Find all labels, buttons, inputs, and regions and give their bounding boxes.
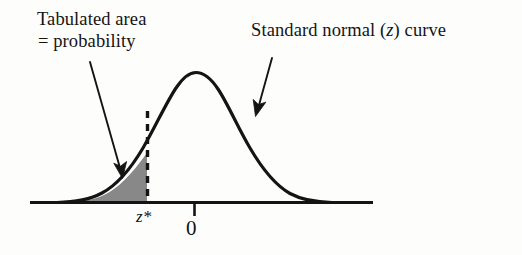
z-star-axis-label: z*	[136, 207, 151, 227]
tabulated-area-label: Tabulated area= probability	[37, 9, 147, 53]
standard-normal-curve-label: Standard normal (z) curve	[251, 20, 446, 42]
left-annotation-arrow	[90, 62, 127, 179]
right-annotation-arrow	[253, 58, 272, 117]
standard-normal-label-suffix: ) curve	[394, 20, 447, 40]
normal-curve-figure: Tabulated area= probability Standard nor…	[0, 0, 522, 255]
tabulated-area-label-line1: Tabulated area	[37, 9, 147, 29]
standard-normal-label-variable: z	[386, 20, 393, 40]
tabulated-area-label-line2: = probability	[38, 31, 147, 53]
standard-normal-label-prefix: Standard normal (	[251, 20, 386, 40]
zero-axis-label: 0	[186, 216, 197, 241]
